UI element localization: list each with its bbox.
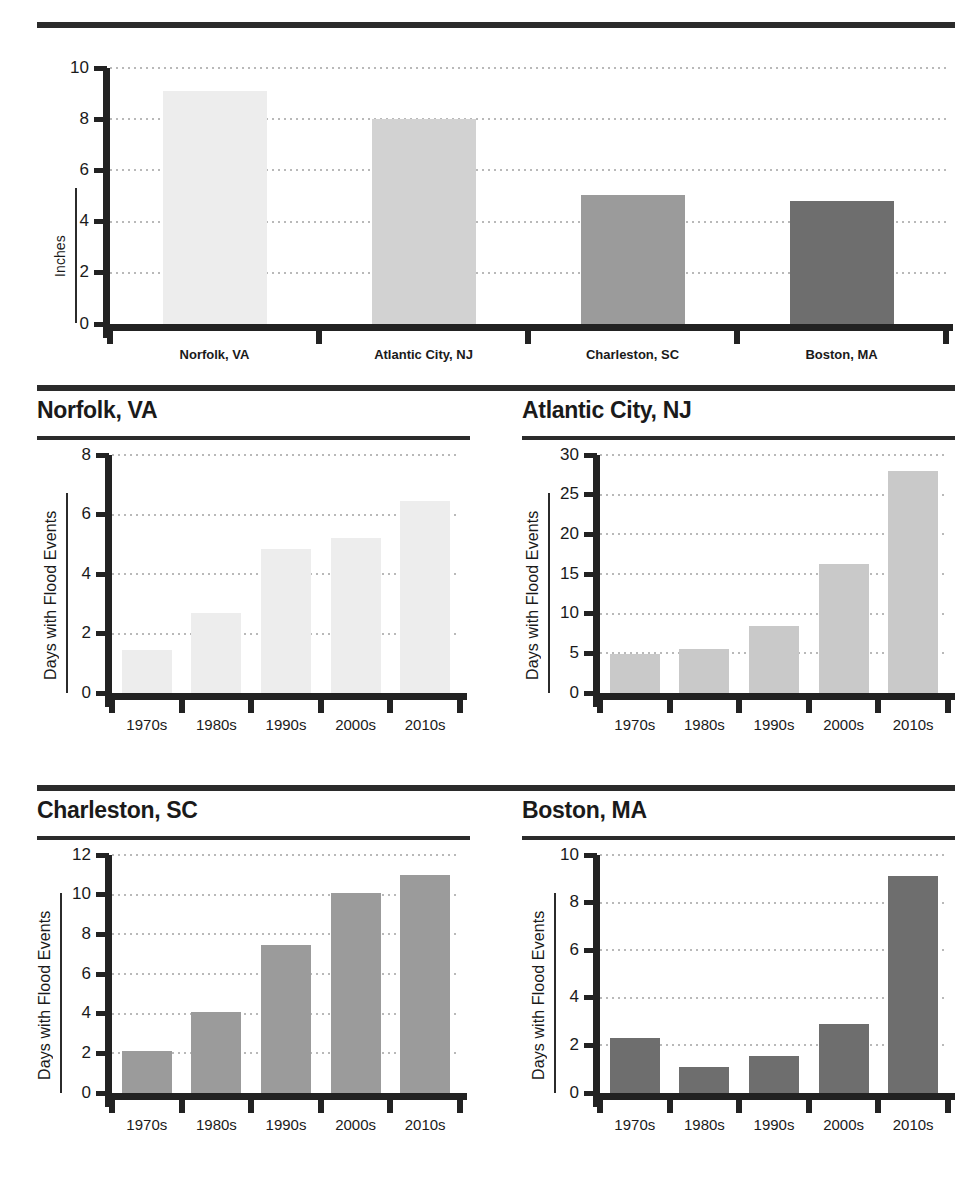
x-axis-spine <box>103 324 953 331</box>
x-axis-spine <box>105 1093 467 1100</box>
bar <box>790 201 894 324</box>
y-axis-tick <box>96 853 109 858</box>
x-axis-tick-label: 2010s <box>813 1117 976 1132</box>
y-axis-tick <box>96 972 109 977</box>
y-axis-tick <box>584 572 597 577</box>
y-axis-tick <box>584 1043 597 1048</box>
y-axis-tick <box>584 900 597 905</box>
panel-norfolk: Norfolk, VA 024681970s1980s1990s2000s201… <box>0 385 488 785</box>
y-axis-tick-label: 6 <box>49 161 89 178</box>
panel-atlantic-city: Atlantic City, NJ 0510152025301970s1980s… <box>488 385 976 785</box>
x-axis-tick <box>875 1100 881 1113</box>
figure-root: 0246810Norfolk, VAAtlantic City, NJCharl… <box>0 0 976 1183</box>
bar <box>400 875 450 1093</box>
gridline <box>112 454 460 456</box>
x-axis-tick <box>875 700 881 713</box>
bar <box>888 876 938 1093</box>
bar <box>122 650 172 693</box>
y-axis-tick <box>94 66 107 71</box>
y-axis-tick <box>96 691 109 696</box>
y-axis-label-rule <box>554 893 556 1093</box>
panel-title-atlantic-city: Atlantic City, NJ <box>522 397 692 424</box>
bar <box>610 654 660 693</box>
y-axis-tick <box>584 948 597 953</box>
gridline <box>600 854 948 856</box>
y-axis-tick <box>584 492 597 497</box>
y-axis-tick-label: 0 <box>49 315 89 332</box>
y-axis-tick-label: 30 <box>539 446 579 463</box>
bar <box>331 538 381 693</box>
x-axis-tick <box>387 700 393 713</box>
y-axis-tick-label: 8 <box>51 446 91 463</box>
x-axis-tick <box>667 1100 673 1113</box>
y-axis-spine <box>105 455 112 707</box>
panel-title-boston: Boston, MA <box>522 797 647 824</box>
y-axis-tick <box>584 611 597 616</box>
y-axis-tick <box>96 1091 109 1096</box>
y-axis-tick <box>584 691 597 696</box>
y-axis-tick-label: 4 <box>51 1004 91 1021</box>
y-axis-tick-label: 2 <box>51 1044 91 1061</box>
y-axis-tick <box>584 1091 597 1096</box>
y-axis-tick-label: 8 <box>49 110 89 127</box>
gridline <box>110 67 946 69</box>
x-axis-tick <box>248 700 254 713</box>
y-axis-tick-label: 10 <box>539 846 579 863</box>
panel-charleston-underline <box>37 836 470 840</box>
norfolk-plot: 024681970s1980s1990s2000s2010sDays with … <box>0 445 488 775</box>
x-axis-tick <box>945 700 951 713</box>
y-axis-tick-label: 5 <box>539 644 579 661</box>
bar <box>400 501 450 693</box>
bar <box>372 119 476 324</box>
summary-chart: 0246810Norfolk, VAAtlantic City, NJCharl… <box>0 46 976 356</box>
y-axis-tick <box>94 168 107 173</box>
y-axis-tick <box>584 453 597 458</box>
y-axis-tick <box>584 853 597 858</box>
y-axis-tick-label: 10 <box>539 604 579 621</box>
x-axis-tick <box>736 1100 742 1113</box>
y-axis-label-rule <box>60 893 62 1093</box>
y-axis-label: Days with Flood Events <box>530 893 548 1098</box>
panel-boston-underline <box>522 836 955 840</box>
y-axis-tick-label: 6 <box>51 965 91 982</box>
summary-plot: 0246810Norfolk, VAAtlantic City, NJCharl… <box>0 46 976 356</box>
y-axis-label-rule <box>66 493 68 693</box>
x-axis-tick <box>525 331 531 344</box>
gridline <box>112 854 460 856</box>
x-axis-tick <box>179 700 185 713</box>
y-axis-tick <box>94 322 107 327</box>
y-axis-tick <box>94 219 107 224</box>
y-axis-tick <box>96 572 109 577</box>
bar <box>610 1038 660 1093</box>
bar <box>749 1056 799 1093</box>
y-axis-tick <box>94 117 107 122</box>
y-axis-label: Days with Flood Events <box>524 493 542 698</box>
y-axis-tick <box>584 995 597 1000</box>
x-axis-tick-label: 2010s <box>813 717 976 732</box>
x-axis-tick <box>109 1100 115 1113</box>
y-axis-tick-label: 0 <box>539 684 579 701</box>
bar <box>191 1012 241 1093</box>
x-axis-tick <box>179 1100 185 1113</box>
atlantic-city-plot: 0510152025301970s1980s1990s2000s2010sDay… <box>488 445 976 775</box>
y-axis-tick <box>96 1051 109 1056</box>
x-axis-tick <box>109 700 115 713</box>
x-axis-tick <box>945 1100 951 1113</box>
y-axis-tick <box>96 892 109 897</box>
bar <box>819 1024 869 1093</box>
x-axis-tick-label: Boston, MA <box>742 348 942 361</box>
gridline <box>600 454 948 456</box>
y-axis-tick <box>96 512 109 517</box>
y-axis-tick-label: 15 <box>539 565 579 582</box>
x-axis-tick <box>943 331 949 344</box>
bar <box>331 893 381 1093</box>
panel-atlantic-city-underline <box>522 436 955 440</box>
bar <box>888 471 938 693</box>
bar <box>749 626 799 693</box>
y-axis-label-rule <box>548 493 550 693</box>
x-axis-tick <box>806 1100 812 1113</box>
x-axis-tick <box>667 700 673 713</box>
x-axis-tick <box>318 1100 324 1113</box>
x-axis-tick <box>734 331 740 344</box>
x-axis-tick-label: Charleston, SC <box>533 348 733 361</box>
